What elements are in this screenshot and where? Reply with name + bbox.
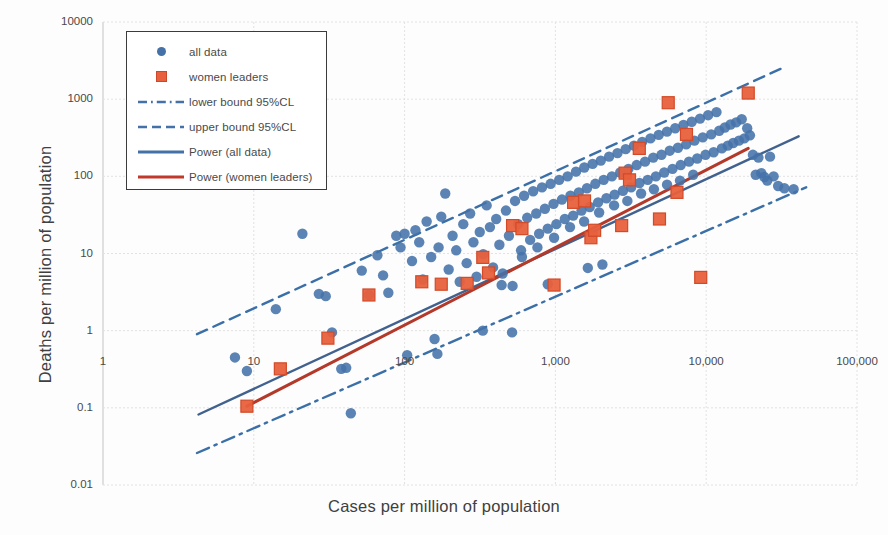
data-point-all [636,188,646,198]
chart-legend: all datawomen leaderslower bound 95%CLup… [126,31,327,190]
data-point-all [688,169,698,179]
x-tick-label: 100 [360,355,450,367]
x-tick-label: 10,000 [661,355,751,367]
data-point-all [429,334,439,344]
data-point-women-leader [548,279,560,291]
circle-marker-icon [157,47,166,56]
legend-item[interactable]: women leaders [127,64,326,89]
data-point-all [475,227,485,237]
data-point-women-leader [616,220,628,232]
data-point-all [478,325,488,335]
line-style-icon [136,121,186,133]
data-point-all [461,258,471,268]
data-point-all [407,256,417,266]
data-point-all [525,235,535,245]
data-point-all [297,229,307,239]
data-point-all [497,268,507,278]
legend-item[interactable]: Power (all data) [127,139,326,164]
data-point-women-leader [461,277,473,289]
data-point-all [383,288,393,298]
data-point-all [622,196,632,206]
data-point-all [468,237,478,247]
data-point-all [519,191,529,201]
data-point-all [675,175,685,185]
data-point-all [440,188,450,198]
data-point-women-leader [241,400,253,412]
data-point-women-leader [482,267,494,279]
x-axis-title: Cases per million of population [0,497,888,516]
data-point-women-leader [633,142,645,154]
data-point-all [378,270,388,280]
data-point-women-leader [568,196,580,208]
data-point-all [433,242,443,252]
data-point-all [451,245,461,255]
legend-item-label: upper bound 95%CL [189,121,296,133]
legend-item-label: Power (women leaders) [189,171,313,183]
data-point-all [341,363,351,373]
data-point-all [346,408,356,418]
data-point-women-leader [695,271,707,283]
data-point-all [436,211,446,221]
line-style-icon [136,96,186,108]
data-point-women-leader [680,128,692,140]
data-point-women-leader [589,224,601,236]
legend-item[interactable]: all data [127,39,326,64]
data-point-all [549,233,559,243]
data-point-all [443,264,453,274]
data-point-all [765,151,775,161]
data-point-all [517,252,527,262]
data-point-all [507,327,517,337]
data-point-all [399,229,409,239]
legend-item[interactable]: lower bound 95%CL [127,89,326,114]
data-point-all [534,229,544,239]
legend-line-icon [133,96,189,108]
data-point-women-leader [671,186,683,198]
y-axis-title: Deaths per million of population [36,65,55,465]
y-tick-label: 10000 [15,15,93,27]
data-point-women-leader [579,195,591,207]
legend-square-icon [133,71,189,82]
y-tick-label: 0.01 [15,478,93,490]
data-point-all [496,280,506,290]
data-point-all [414,237,424,247]
legend-item-label: lower bound 95%CL [189,96,294,108]
legend-dot-icon [133,47,189,56]
data-point-all [579,216,589,226]
data-point-all [609,200,619,210]
legend-item-label: all data [189,46,227,58]
data-point-women-leader [653,213,665,225]
data-point-women-leader [363,289,375,301]
legend-item[interactable]: Power (women leaders) [127,164,326,189]
legend-item-label: Power (all data) [189,146,271,158]
x-tick-label: 10 [209,355,299,367]
data-point-all [510,196,520,206]
data-point-all [481,200,491,210]
data-point-all [779,183,789,193]
legend-line-icon [133,171,189,183]
x-tick-label: 1 [58,355,148,367]
legend-item-label: women leaders [189,71,268,83]
chart-figure: 1000010001001010.10.01 1101001,00010,000… [0,0,888,535]
data-point-all [753,152,763,162]
data-point-all [737,114,747,124]
data-point-all [594,207,604,217]
data-point-women-leader [435,278,447,290]
data-point-women-leader [623,174,635,186]
data-point-all [421,216,431,226]
data-point-all [768,171,778,181]
legend-item[interactable]: upper bound 95%CL [127,114,326,139]
data-point-all [447,231,457,241]
data-point-all [501,205,511,215]
data-point-all [410,225,420,235]
data-point-all [357,265,367,275]
data-point-all [458,219,468,229]
x-tick-label: 100,000 [812,355,888,367]
data-point-all [271,304,281,314]
line-style-icon [136,171,186,183]
data-point-all [532,242,542,252]
data-point-women-leader [477,251,489,263]
data-point-all [745,130,755,140]
data-point-all [494,240,504,250]
x-tick-label: 1,000 [510,355,600,367]
data-point-women-leader [416,276,428,288]
